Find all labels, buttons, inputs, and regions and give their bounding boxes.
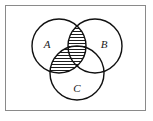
hatched-fill-a-intersect-b-union-c	[0, 0, 153, 121]
shaded-region-group	[0, 0, 153, 121]
set-label-a: A	[43, 38, 51, 50]
set-label-b: B	[101, 38, 108, 50]
venn-diagram-figure: A B C	[0, 0, 153, 121]
set-label-c: C	[73, 82, 81, 94]
venn-diagram-canvas: A B C	[0, 0, 153, 121]
